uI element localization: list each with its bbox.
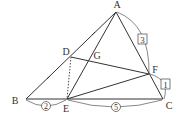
ratio-ec-text: 5: [114, 103, 118, 112]
label-c: C: [166, 100, 173, 111]
ratio-be-text: 2: [44, 102, 48, 111]
label-e: E: [63, 103, 69, 114]
label-d: D: [62, 46, 69, 57]
ratio-label-af: 3: [138, 34, 147, 45]
label-f: F: [152, 64, 158, 75]
label-g: G: [93, 50, 100, 61]
label-b: B: [12, 95, 19, 106]
triangle-diagram: 3 1 2 5 A B C D E F G: [0, 0, 177, 126]
ratio-label-fc: 1: [161, 79, 170, 90]
ratio-fc-text: 1: [163, 80, 168, 90]
tick-mark-db: [47, 76, 50, 79]
ratio-label-ec: 5: [112, 103, 121, 113]
tick-mark-ad: [92, 32, 95, 35]
segment-ab: [26, 12, 116, 99]
segment-ca: [116, 12, 163, 99]
ratio-af-text: 3: [140, 35, 145, 45]
label-a: A: [113, 0, 121, 10]
ratio-label-be: 2: [42, 102, 51, 112]
